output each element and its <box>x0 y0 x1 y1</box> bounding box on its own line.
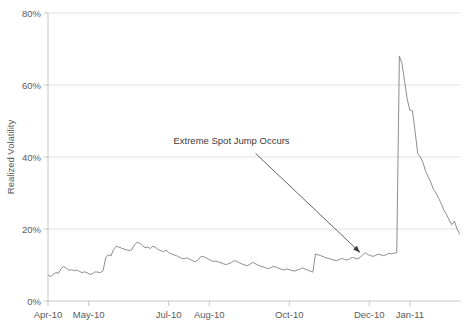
annotation-label: Extreme Spot Jump Occurs <box>173 135 289 146</box>
x-tick-labels-group: Apr-10May-10Jul-10Aug-10Oct-10Dec-10Jan-… <box>34 309 424 320</box>
x-tick-label: Oct-10 <box>275 309 304 320</box>
y-axis-title: Realized Volatility <box>5 120 16 195</box>
x-tick-label: Apr-10 <box>34 309 63 320</box>
x-tick-label: Jul-10 <box>156 309 182 320</box>
x-tick-label: Aug-10 <box>194 309 225 320</box>
annotation-arrow-line <box>256 153 360 252</box>
x-tick-label: May-10 <box>73 309 105 320</box>
x-tick-label: Jan-11 <box>396 309 424 320</box>
y-tick-label: 60% <box>22 80 42 91</box>
gridlines-group <box>48 13 461 229</box>
y-tick-label: 0% <box>27 296 41 307</box>
data-series-line <box>48 56 460 276</box>
annotation-group: Extreme Spot Jump Occurs <box>173 135 360 252</box>
realized-volatility-line-chart: 0%20%40%60%80% Apr-10May-10Jul-10Aug-10O… <box>0 0 465 333</box>
y-tick-label: 80% <box>22 8 42 19</box>
y-tick-label: 20% <box>22 224 42 235</box>
x-tick-label: Dec-10 <box>354 309 385 320</box>
chart-container: 0%20%40%60%80% Apr-10May-10Jul-10Aug-10O… <box>0 0 465 333</box>
tick-marks-group <box>44 13 410 306</box>
y-tick-label: 40% <box>22 152 42 163</box>
y-tick-labels-group: 0%20%40%60%80% <box>22 8 42 307</box>
